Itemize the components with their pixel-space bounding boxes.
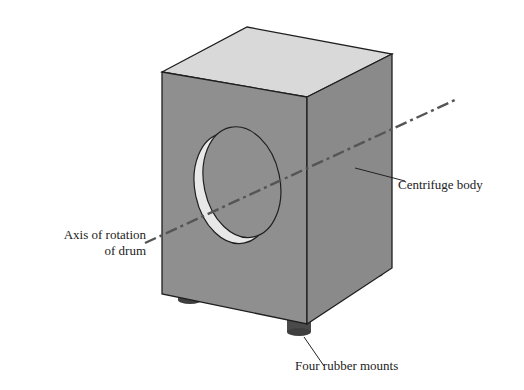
- axis-label-line1: Axis of rotation: [64, 227, 146, 243]
- centrifuge-diagram: Axis of rotation of drum Centrifuge body…: [0, 0, 524, 390]
- centrifuge-body-label: Centrifuge body: [398, 177, 483, 193]
- rubber-mounts-label: Four rubber mounts: [295, 358, 398, 374]
- axis-of-rotation-label: Axis of rotation of drum: [64, 227, 146, 259]
- centrifuge-drawing: [0, 0, 524, 390]
- axis-label-line2: of drum: [64, 243, 146, 259]
- side-face: [307, 54, 392, 324]
